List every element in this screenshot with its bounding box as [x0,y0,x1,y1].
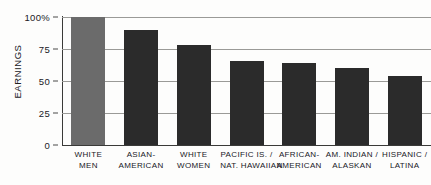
category-label-line: AFRICAN- [273,150,326,161]
category-label-line: ASIAN- [115,150,168,161]
gridline-0 [62,145,431,146]
bar [230,61,264,145]
bar-series [62,17,431,145]
y-tick-mark-0 [53,145,58,146]
category-label: AM. INDIAN /ALASKAN [326,150,379,171]
y-tick-label-75: 75 [8,44,50,55]
bar [282,63,316,145]
category-label: WHITEMEN [62,150,115,171]
category-label-line: AMERICAN [115,161,168,172]
category-label-line: WOMEN [167,161,220,172]
y-tick-mark-100 [53,17,58,18]
y-axis-tick-marks [53,0,61,185]
bar [71,17,105,145]
category-label-line: AMERICAN [273,161,326,172]
category-label-line: HISPANIC / [378,150,431,161]
x-axis-category-labels: WHITEMENASIAN-AMERICANWHITEWOMENPACIFIC … [62,150,431,182]
category-label: ASIAN-AMERICAN [115,150,168,171]
y-tick-mark-25 [53,113,58,114]
earnings-bar-chart: EARNINGS 0255075100% WHITEMENASIAN-AMERI… [0,0,431,185]
category-label: WHITEWOMEN [167,150,220,171]
category-label-line: MEN [62,161,115,172]
bar [335,68,369,145]
y-tick-mark-50 [53,81,58,82]
category-label-line: WHITE [167,150,220,161]
bar [388,76,422,145]
y-tick-mark-75 [53,49,58,50]
category-label: HISPANIC /LATINA [378,150,431,171]
y-tick-label-25: 25 [8,108,50,119]
category-label-line: WHITE [62,150,115,161]
category-label-line: ALASKAN [326,161,379,172]
y-tick-label-0: 0 [8,140,50,151]
y-tick-label-50: 50 [8,76,50,87]
category-label: AFRICAN-AMERICAN [273,150,326,171]
category-label-line: LATINA [378,161,431,172]
category-label: PACIFIC IS. /NAT. HAWAIIAN [220,150,273,171]
category-label-line: AM. INDIAN / [326,150,379,161]
bar [177,45,211,145]
category-label-line: NAT. HAWAIIAN [220,161,273,172]
bar [124,30,158,145]
plot-area [62,17,431,145]
y-axis-tick-labels: 0255075100% [8,0,50,185]
y-tick-label-100: 100% [8,12,50,23]
category-label-line: PACIFIC IS. / [220,150,273,161]
